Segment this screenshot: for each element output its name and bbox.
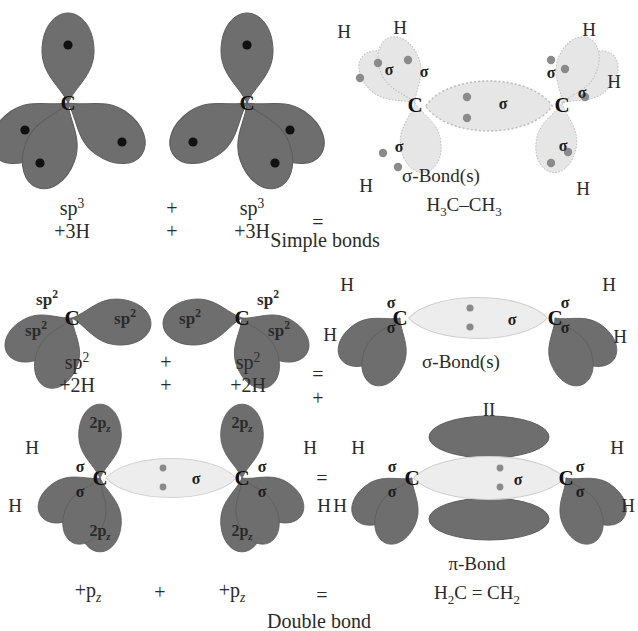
row-caption-simple-bonds: Simple bonds <box>270 229 379 252</box>
pi-lobe-bottom <box>429 498 549 540</box>
hydrogen-label: H <box>607 71 621 93</box>
sigma-bond-caption: σ-Bond(s) <box>422 351 500 373</box>
operator-equals-below: = <box>316 584 327 607</box>
hydrogen-label: H <box>337 21 351 43</box>
carbon-atom-label: C <box>404 466 419 491</box>
carbon-atom-label: C <box>64 306 79 331</box>
sigma-label: σ <box>578 84 587 102</box>
orbital-label-sp2: sp2 <box>114 307 136 329</box>
pi-orbital-top-label: II <box>483 399 496 421</box>
sigma-label: σ <box>385 61 394 79</box>
reactant-label-sp2-left: sp2 <box>65 350 90 375</box>
reactant-hydrogens-left: +2H <box>59 374 95 397</box>
reactant-hydrogens-right: +2H <box>230 374 266 397</box>
ethane-formula: H3C–CH3 <box>426 194 501 220</box>
hydrogen-label: H <box>333 495 347 517</box>
row2-sigma-product <box>329 298 626 393</box>
sigma-label: σ <box>576 483 585 501</box>
hydrogen-label: H <box>323 324 337 346</box>
hydrogen-label: H <box>351 437 365 459</box>
pi-bond-caption: π-Bond <box>448 553 505 575</box>
reactant-label-pz-left: +pz <box>75 579 102 606</box>
orbital-label-sp2: sp2 <box>36 288 58 310</box>
sigma-label: σ <box>388 458 397 476</box>
carbon-atom-label: C <box>234 466 249 491</box>
hydrogen-label: H <box>610 437 624 459</box>
operator-plus: + <box>154 581 165 604</box>
carbon-atom-label: C <box>92 466 107 491</box>
sigma-label: σ <box>561 294 570 312</box>
reactant-hydrogens-right: +3H <box>234 220 270 243</box>
sigma-label: σ <box>387 319 396 337</box>
row1-ethane-product <box>349 30 627 175</box>
sigma-label: σ <box>395 138 404 156</box>
reactant-hydrogens-left: +3H <box>54 220 90 243</box>
hydrogen-label: H <box>8 495 22 517</box>
row3-reactant-sigma-lens <box>106 459 236 498</box>
hydrogen-label: H <box>393 17 407 39</box>
sigma-label: σ <box>76 483 85 501</box>
ethene-formula: H2C = CH2 <box>434 582 520 608</box>
sigma-label: σ <box>561 319 570 337</box>
operator-equals: = <box>312 363 323 386</box>
hydrogen-label: H <box>602 274 616 296</box>
sigma-label: σ <box>76 458 85 476</box>
sigma-label: σ <box>192 470 201 488</box>
reactant-label-pz-right: +pz <box>219 579 246 606</box>
carbon-atom-label: C <box>234 306 249 331</box>
sigma-label: σ <box>559 137 568 155</box>
sigma-label: σ <box>547 64 556 82</box>
operator-plus: + <box>166 197 177 220</box>
hydrogen-label: H <box>25 437 39 459</box>
diagram-canvas: C C sp3 +3H + + sp3 +3H = H H H H H H C … <box>0 0 638 631</box>
orbital-label-2pz: 2pz <box>231 414 252 434</box>
sigma-bond-caption: σ-Bond(s) <box>402 165 480 187</box>
sigma-label: σ <box>499 95 508 113</box>
hydrogen-label: H <box>317 495 331 517</box>
carbon-atom-label: C <box>407 93 422 118</box>
carbon-atom-label: C <box>554 93 569 118</box>
operator-plus-below: + <box>312 387 323 410</box>
orbital-label-2pz: 2pz <box>231 522 252 542</box>
hydrogen-label: H <box>621 495 635 517</box>
orbital-label-sp2: sp2 <box>179 307 201 329</box>
orbital-label-2pz: 2pz <box>89 522 110 542</box>
pi-lobe-top <box>429 416 549 458</box>
sigma-label: σ <box>387 294 396 312</box>
operator-plus: + <box>160 374 171 397</box>
sigma-label: σ <box>508 311 517 329</box>
hydrogen-label: H <box>582 19 596 41</box>
operator-plus: + <box>166 220 177 243</box>
orbital-label-2pz: 2pz <box>89 414 110 434</box>
carbon-atom-label: C <box>60 91 75 116</box>
carbon-atom-label: C <box>239 91 254 116</box>
sigma-label: σ <box>420 63 429 81</box>
orbital-label-sp2: sp2 <box>268 319 290 341</box>
row-caption-double-bond: Double bond <box>267 610 371 631</box>
hydrogen-label: H <box>303 437 317 459</box>
operator-equals: = <box>316 467 327 490</box>
carbon-atom-label: C <box>558 466 573 491</box>
sigma-label: σ <box>576 458 585 476</box>
sigma-label: σ <box>258 458 267 476</box>
sigma-label: σ <box>258 483 267 501</box>
hydrogen-label: H <box>359 175 373 197</box>
reactant-label-sp3-left: sp3 <box>60 196 85 221</box>
reactant-label-sp3-right: sp3 <box>240 196 265 221</box>
operator-plus: + <box>160 351 171 374</box>
row1-left-sp3-carbon <box>0 13 157 196</box>
hydrogen-label: H <box>613 326 627 348</box>
orbital-label-sp2: sp2 <box>25 319 47 341</box>
hydrogen-label: H <box>576 178 590 200</box>
reactant-label-sp2-right: sp2 <box>236 350 261 375</box>
hydrogen-label: H <box>340 274 354 296</box>
sigma-label: σ <box>514 471 523 489</box>
orbital-label-sp2: sp2 <box>257 288 279 310</box>
sigma-label: σ <box>388 483 397 501</box>
